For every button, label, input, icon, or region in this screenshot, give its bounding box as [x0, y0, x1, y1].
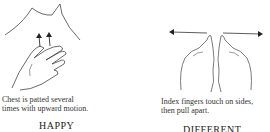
- upward-arrow-icon: [36, 32, 52, 47]
- hand-on-chest-illustration: [0, 0, 135, 95]
- sign-word: DIFFERENT: [183, 124, 241, 132]
- sign-different: Index fingers touch on sides, then pull …: [135, 0, 270, 132]
- caption-line-1: Chest is patted several: [2, 95, 88, 104]
- caption-line-2: then pull apart.: [161, 106, 253, 115]
- caption-line-1: Index fingers touch on sides,: [161, 97, 253, 106]
- sign-word: HAPPY: [39, 120, 74, 131]
- caption-line-2: times with upward motion.: [2, 104, 88, 113]
- index-fingers-illustration: [135, 0, 270, 95]
- sign-description: Index fingers touch on sides, then pull …: [161, 97, 253, 115]
- sign-description: Chest is patted several times with upwar…: [2, 95, 88, 113]
- sign-happy: Chest is patted several times with upwar…: [0, 0, 135, 132]
- double-arrow-icon: [169, 29, 263, 37]
